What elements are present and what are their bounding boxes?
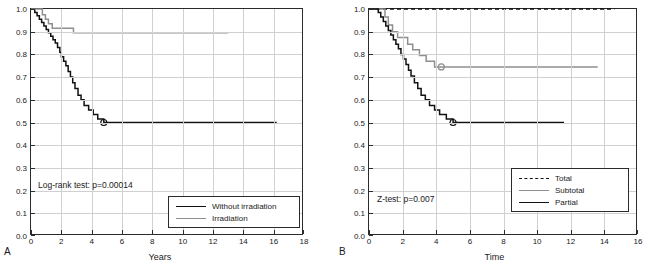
y-tick-mark [369,32,373,33]
x-tick-mark [303,230,304,234]
legend-label: Partial [555,198,578,207]
y-tick-mark [369,235,373,236]
x-tick-mark [122,230,123,234]
x-tick-label: 6 [468,237,472,246]
y-tick-mark [31,191,35,192]
gridline-horizontal [31,100,302,101]
gridline-horizontal [369,123,636,124]
legend-swatch-irradiation [176,218,206,219]
x-tick-label: 6 [120,237,124,246]
x-tick-label: 14 [239,237,248,246]
y-tick-label: 0.6 [16,95,27,104]
gridline-vertical [504,9,505,234]
legend-item: Total [514,172,626,184]
y-tick-mark [369,213,373,214]
x-tick-label: 12 [566,237,575,246]
gridline-horizontal [369,54,636,55]
x-tick-mark [274,230,275,234]
legend-label: Total [555,174,572,183]
y-tick-mark [31,9,35,10]
legend-label: Irradiation [212,214,248,223]
y-tick-label: 0.8 [354,50,365,59]
x-tick-mark [604,230,605,234]
x-tick-label: 2 [400,237,404,246]
x-tick-mark [369,230,370,234]
gridline-horizontal [31,123,302,124]
x-tick-label: 4 [434,237,438,246]
y-tick-mark [31,54,35,55]
x-tick-label: 2 [59,237,63,246]
curve-partial [369,9,564,123]
x-tick-mark [213,230,214,234]
y-tick-label: 0.7 [354,73,365,82]
y-tick-label: 0.0 [354,232,365,241]
gridline-vertical [122,9,123,234]
panel-letter-a: A [4,246,11,257]
x-tick-label: 18 [300,237,309,246]
y-tick-label: 0.5 [354,118,365,127]
x-tick-mark [243,230,244,234]
gridline-horizontal [31,168,302,169]
figure-root: 0.00.10.20.30.40.50.60.70.80.91.00246810… [0,0,670,269]
y-tick-label: 0.8 [16,50,27,59]
gridline-horizontal [31,77,302,78]
legend-swatch-without-irradiation [176,206,206,207]
legend-label: Subtotal [555,186,584,195]
panel-letter-b: B [339,246,346,257]
y-tick-mark [369,168,373,169]
gridline-horizontal [31,54,302,55]
gridline-horizontal [369,213,636,214]
x-tick-label: 4 [89,237,93,246]
y-tick-mark [369,100,373,101]
y-tick-label: 0.1 [16,209,27,218]
gridline-horizontal [31,32,302,33]
y-tick-mark [31,235,35,236]
x-tick-mark [637,230,638,234]
gridline-vertical [152,9,153,234]
gridline-horizontal [369,77,636,78]
x-tick-mark [31,230,32,234]
y-tick-mark [369,123,373,124]
x-tick-label: 10 [533,237,542,246]
x-tick-mark [61,230,62,234]
y-tick-mark [369,191,373,192]
panel-b: 0.00.10.20.30.40.50.60.70.80.91.00246810… [335,0,670,269]
y-tick-label: 0.6 [354,95,365,104]
x-tick-label: 0 [29,237,33,246]
legend-swatch-partial [519,202,549,203]
y-tick-label: 0.1 [354,209,365,218]
legend-swatch-subtotal [519,190,549,191]
y-tick-mark [31,77,35,78]
x-tick-mark [152,230,153,234]
y-tick-label: 0.2 [354,186,365,195]
legend-b: TotalSubtotalPartial [511,168,629,212]
y-tick-label: 0.2 [16,186,27,195]
y-tick-label: 0.9 [16,27,27,36]
y-tick-label: 0.4 [16,141,27,150]
gridline-vertical [92,9,93,234]
gridline-horizontal [369,100,636,101]
x-tick-mark [92,230,93,234]
y-tick-mark [31,123,35,124]
y-tick-label: 0.5 [16,118,27,127]
x-axis-label-b: Time [485,252,505,262]
y-tick-mark [31,145,35,146]
x-tick-mark [504,230,505,234]
x-tick-mark [436,230,437,234]
x-tick-label: 8 [150,237,154,246]
y-tick-label: 0.4 [354,141,365,150]
panel-a: 0.00.10.20.30.40.50.60.70.80.91.00246810… [0,0,335,269]
x-axis-label-a: Years [149,252,172,262]
x-tick-mark [537,230,538,234]
x-tick-label: 14 [600,237,609,246]
annotation-logrank: Log-rank test: p=0.00014 [38,180,133,190]
y-tick-mark [369,145,373,146]
legend-swatch-total [519,178,549,179]
legend-item: Without irradiation [171,200,297,212]
x-tick-label: 8 [501,237,505,246]
legend-item: Subtotal [514,184,626,196]
y-tick-mark [31,213,35,214]
x-tick-label: 16 [634,237,643,246]
annotation-ztest: Z-test: p=0.007 [377,194,434,204]
x-tick-label: 10 [178,237,187,246]
